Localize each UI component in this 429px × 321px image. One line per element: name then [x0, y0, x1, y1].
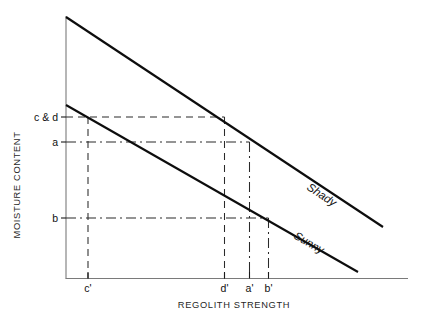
chart-figure: Shady Sunny c & d a b c' d' a' b' REGOLI…: [0, 0, 429, 321]
y-tick-label-cd: c & d: [34, 111, 58, 123]
x-tick-label-c-prime: c': [84, 282, 91, 294]
x-tick-label-a-prime: a': [246, 282, 254, 294]
y-tick-label-a: a: [52, 136, 58, 148]
series-label-sunny: Sunny: [292, 229, 327, 256]
chart-plot-area: Shady Sunny c & d a b c' d' a' b' REGOLI…: [0, 0, 429, 321]
x-tick-label-b-prime: b': [265, 282, 273, 294]
y-axis-title: MOISTURE CONTENT: [12, 132, 22, 239]
x-tick-label-d-prime: d': [221, 282, 229, 294]
series-label-shady: Shady: [305, 181, 340, 210]
x-axis-title: REGOLITH STRENGTH: [178, 300, 290, 310]
y-tick-label-b: b: [52, 212, 58, 224]
